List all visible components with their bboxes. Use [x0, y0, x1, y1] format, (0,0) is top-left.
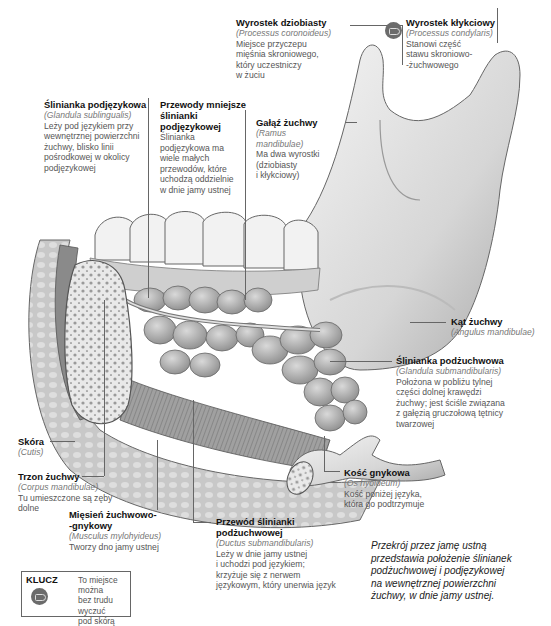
leader-line	[410, 322, 446, 323]
label-latin: (Glandula submandibularis)	[396, 366, 551, 377]
leader-line	[330, 361, 392, 362]
label-latin: (Ramus	[256, 128, 341, 139]
label-latin: (Ductus submandibularis)	[216, 538, 346, 549]
sublingual-gland	[134, 286, 272, 377]
label-latin: (Os hyoideum)	[344, 478, 454, 489]
label-cutis: Skóra (Cutis)	[18, 436, 68, 458]
label-processus-condylaris: Wyrostek kłykciowy (Processus condylaris…	[406, 17, 516, 70]
label-latin: (Musculus mylohyideus)	[69, 531, 169, 542]
label-title: Kość gnykowa	[344, 467, 454, 478]
leader-line	[157, 440, 158, 510]
label-latin: (Processus condylaris)	[406, 28, 516, 39]
palpation-hand-icon	[385, 22, 402, 39]
lower-teeth	[95, 212, 318, 271]
key-description: To miejsce można bez trudu wyczuć pod sk…	[78, 575, 130, 626]
label-title: Ślinianka podjęzykowa	[44, 99, 154, 110]
label-title: Wyrostek kłykciowy	[406, 17, 516, 28]
mandible-body-section	[65, 261, 132, 424]
label-ramus-mandibulae: Gałąź żuchwy (Ramus mandibulae) Ma dwa w…	[256, 117, 341, 181]
label-title: Wyrostek dziobiasty	[236, 17, 346, 28]
label-os-hyoideum: Kość gnykowa (Os hyoideum) Kość poniżej …	[344, 467, 454, 510]
leader-line	[402, 25, 403, 65]
label-glandula-submandibularis: Ślinianka podżuchwowa (Glandula submandi…	[396, 355, 551, 430]
label-title: Skóra	[18, 436, 68, 447]
leader-line	[345, 122, 357, 123]
label-title: Gałąź żuchwy	[256, 117, 341, 128]
label-latin: (Processus coronoideus)	[236, 28, 346, 39]
key-legend: KLUCZ To miejsce można bez trudu wyczuć …	[21, 571, 131, 617]
label-latin: (Cutis)	[18, 447, 68, 458]
label-angulus-mandibulae: Kąt żuchwy (Angulus mandibulae)	[451, 316, 551, 338]
label-glandula-sublingualis: Ślinianka podjęzykowa (Glandula sublingu…	[44, 99, 154, 174]
label-title: Trzon żuchwy	[18, 471, 128, 482]
label-processus-coronoideus: Wyrostek dziobiasty (Processus coronoide…	[236, 17, 346, 81]
label-ductus-submandibularis: Przewód ślinianki podżuchwowej (Ductus s…	[216, 516, 346, 591]
label-corpus-mandibulae: Trzon żuchwy (Corpus mandibulae) Tu umie…	[18, 471, 128, 514]
label-latin: (Glandula sublingualis)	[44, 110, 154, 121]
label-ductus-sublinguales: Przewody mniejsze ślinianki podjęzykowej…	[160, 99, 260, 196]
leader-line	[324, 471, 340, 472]
leader-line	[193, 522, 211, 523]
leader-line	[324, 436, 325, 471]
leader-line	[104, 300, 105, 476]
label-title: Przewody mniejsze	[160, 99, 260, 110]
key-title: KLUCZ	[26, 574, 58, 585]
palpation-hand-icon	[31, 588, 48, 605]
label-musculus-mylohyoideus: Mięsień żuchwowo- -gnykowy (Musculus myl…	[69, 509, 169, 552]
label-latin: (Corpus mandibulae)	[18, 482, 128, 493]
label-title: Mięsień żuchwowo-	[69, 509, 169, 520]
label-latin: (Angulus mandibulae)	[451, 327, 551, 338]
figure-caption: Przekrój przez jamę ustną przedstawia po…	[371, 540, 551, 603]
label-title: Przewód ślinianki	[216, 516, 346, 527]
leader-line	[193, 400, 194, 522]
label-title: Kąt żuchwy	[451, 316, 551, 327]
label-title: Ślinianka podżuchwowa	[396, 355, 551, 366]
